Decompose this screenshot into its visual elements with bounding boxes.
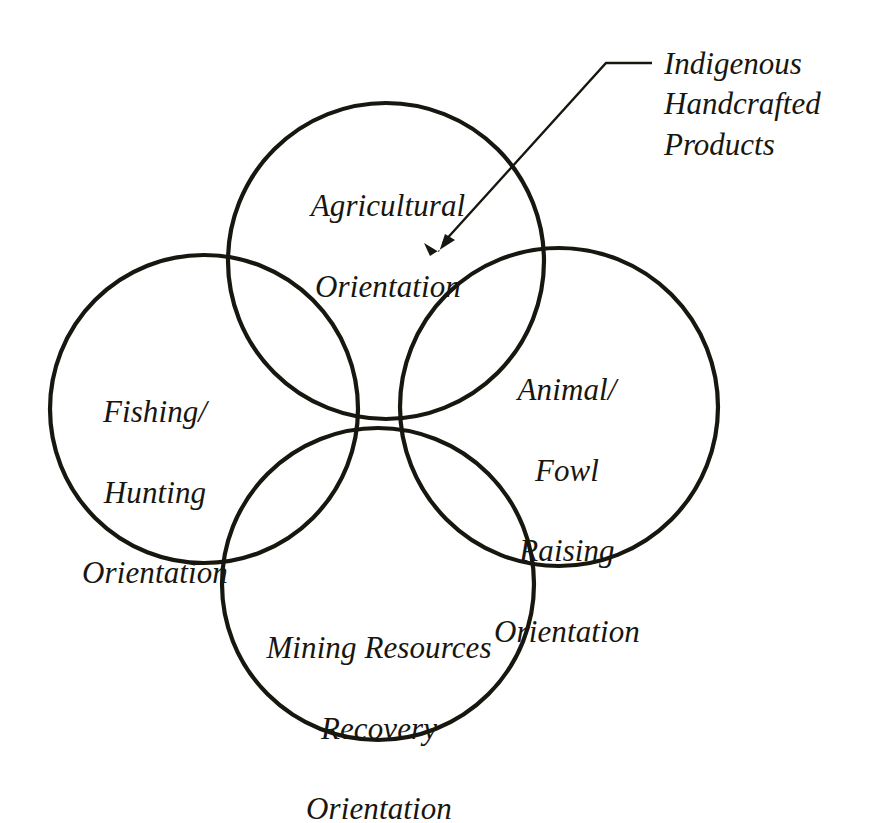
callout-line: Handcrafted — [664, 84, 874, 124]
label-line: Raising — [452, 531, 682, 571]
agricultural-orientation-label: Agricultural Orientation — [248, 146, 528, 347]
label-line: Mining Resources — [218, 628, 540, 668]
callout-line: Products — [664, 125, 874, 165]
mining-resources-recovery-orientation-label: Mining Resources Recovery Orientation — [218, 588, 540, 823]
label-line: Hunting — [44, 473, 266, 513]
label-line: Fishing/ — [44, 392, 266, 432]
label-line: Recovery — [218, 709, 540, 749]
label-line: Orientation — [248, 267, 528, 307]
label-line: Fowl — [452, 451, 682, 491]
label-line: Agricultural — [248, 186, 528, 226]
label-line: Orientation — [218, 789, 540, 823]
label-line: Animal/ — [452, 370, 682, 410]
callout-line: Indigenous — [664, 44, 874, 84]
indigenous-handcrafted-products-callout-label: Indigenous Handcrafted Products — [664, 44, 874, 165]
